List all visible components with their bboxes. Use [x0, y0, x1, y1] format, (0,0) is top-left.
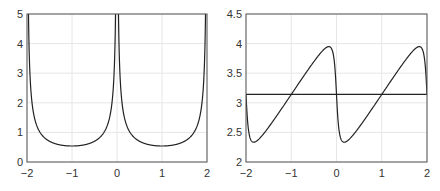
y-tick-label: 4	[236, 38, 242, 50]
y-tick-label: 2	[17, 97, 23, 109]
subplot-1: −2−1012012345	[17, 0, 210, 179]
x-tick-label: −1	[285, 167, 298, 179]
y-tick-label: 4	[17, 38, 23, 50]
x-tick-label: 0	[114, 167, 120, 179]
x-tick-label: 0	[333, 167, 339, 179]
y-tick-label: 1	[17, 126, 23, 138]
x-tick-label: 1	[159, 167, 165, 179]
y-tick-label: 2	[236, 156, 242, 168]
y-tick-label: 4.5	[227, 8, 242, 20]
y-tick-label: 2.5	[227, 126, 242, 138]
x-tick-label: 2	[204, 167, 210, 179]
chart-canvas: −2−1012012345−2−101222.533.544.5	[0, 0, 440, 191]
x-tick-label: 1	[379, 167, 385, 179]
x-tick-label: −1	[66, 167, 79, 179]
y-tick-label: 0	[17, 156, 23, 168]
y-tick-label: 3	[17, 67, 23, 79]
figure: −2−1012012345−2−101222.533.544.5	[0, 0, 440, 191]
y-tick-label: 3.5	[227, 67, 242, 79]
grid	[27, 14, 207, 162]
y-tick-label: 5	[17, 8, 23, 20]
x-tick-label: −2	[240, 167, 253, 179]
x-tick-label: −2	[21, 167, 34, 179]
subplot-2: −2−101222.533.544.5	[227, 8, 430, 179]
x-tick-label: 2	[424, 167, 430, 179]
y-tick-label: 3	[236, 97, 242, 109]
